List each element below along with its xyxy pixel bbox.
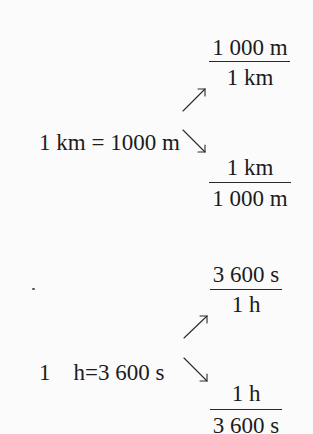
arrows-layer (0, 0, 313, 434)
arrow-up-right-icon (183, 89, 205, 111)
arrow-down-right-icon (184, 358, 207, 381)
arrow-up-right-icon (184, 316, 207, 338)
arrow-down-right-icon (183, 130, 205, 152)
